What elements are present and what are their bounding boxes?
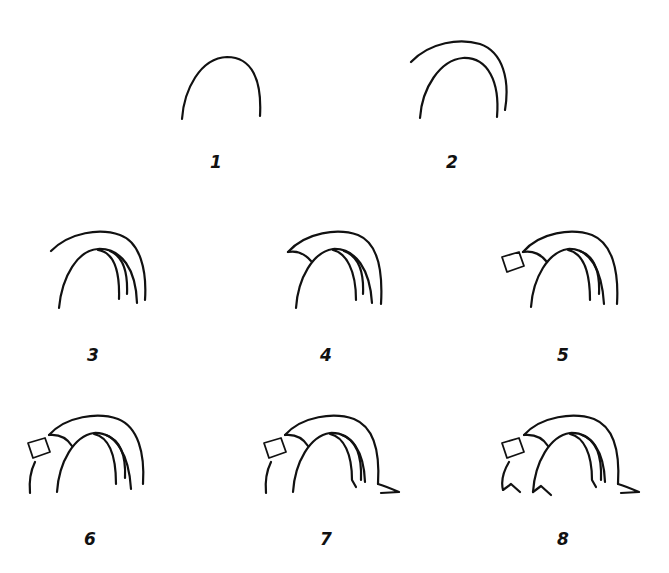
- step-6-label: 6: [84, 529, 96, 549]
- hair-fringe-edge: [285, 435, 308, 446]
- step-4-drawing: [288, 232, 381, 308]
- step-6-drawing: [28, 416, 143, 493]
- step-1-label: 1: [210, 152, 222, 172]
- head-arc: [182, 57, 260, 119]
- step-3-drawing: [51, 232, 145, 308]
- hair-fringe-edge: [523, 252, 547, 262]
- hair-fringe-edge: [288, 251, 311, 261]
- step-7-label: 7: [320, 529, 332, 549]
- front-hair-spiky: [533, 486, 551, 495]
- step-8-drawing: [502, 416, 639, 495]
- hair-fringe-edge: [49, 435, 72, 446]
- step-4-label: 4: [319, 345, 332, 365]
- step-3-label: 3: [87, 345, 99, 365]
- step-8-label: 8: [557, 529, 569, 549]
- step-7-drawing: [264, 416, 399, 493]
- hair-strand: [568, 250, 590, 300]
- step-5-label: 5: [557, 345, 569, 365]
- head-arc: [59, 249, 137, 308]
- hair-clip: [28, 438, 50, 458]
- hair-clip: [502, 438, 524, 458]
- drawing-canvas: 1 2 3 4 5 6 7 8: [0, 0, 669, 573]
- side-hair: [266, 462, 271, 493]
- hair-tip: [618, 484, 639, 493]
- step-2-label: 2: [446, 152, 458, 172]
- hair-clip: [264, 438, 286, 458]
- hair-fringe-edge: [524, 435, 548, 446]
- hair-strand: [344, 251, 363, 294]
- side-hair: [30, 462, 35, 493]
- head-arc: [420, 58, 497, 118]
- hair-strand: [94, 434, 116, 484]
- hair-outer-arc: [288, 232, 381, 304]
- hair-clip: [502, 252, 524, 272]
- step-2-drawing: [411, 41, 507, 118]
- hair-strand: [98, 250, 119, 299]
- side-hair-spiky: [502, 462, 520, 492]
- hair-outer-arc: [51, 232, 145, 300]
- hair-tip: [378, 484, 399, 493]
- step-5-drawing: [502, 232, 617, 307]
- step-1-drawing: [182, 57, 260, 119]
